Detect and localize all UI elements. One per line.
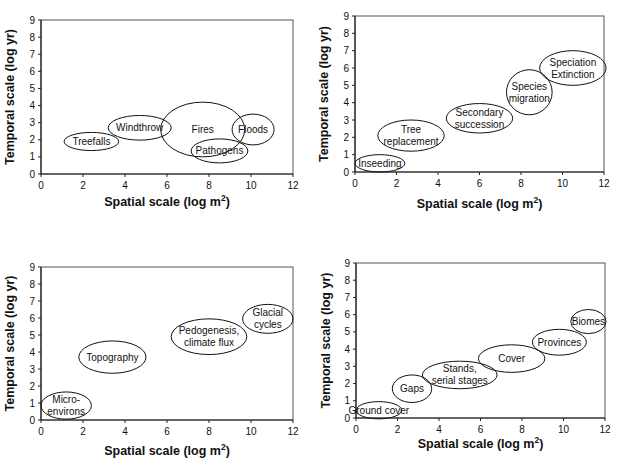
y-axis-label: Temporal scale (log yr) [3, 29, 17, 165]
scale-ellipse: Pathogens [191, 139, 248, 163]
ellipse-label: Extinction [551, 69, 594, 80]
ellipse-label: Inseeding [358, 158, 401, 169]
ellipse-label: environs [47, 406, 85, 417]
y-tick-label: 6 [344, 309, 350, 320]
x-tick-label: 2 [80, 180, 86, 191]
y-tick-label: 3 [343, 115, 349, 126]
chart-panel-2: 0123456789024681012Spatial scale (log m2… [317, 11, 610, 212]
y-tick-label: 9 [29, 262, 35, 273]
scale-ellipse: SpeciationExtinction [540, 51, 606, 86]
x-tick-label: 0 [352, 178, 358, 189]
x-tick-label: 12 [287, 180, 299, 191]
ellipse-label: Biomes [572, 316, 605, 327]
y-axis-label: Temporal scale (log yr) [3, 276, 17, 412]
ellipse-label: Glacial [253, 307, 284, 318]
x-tick-label: 6 [164, 180, 170, 191]
x-tick-label: 6 [164, 426, 170, 437]
y-tick-label: 3 [29, 117, 35, 128]
scale-ellipse: Floods [232, 114, 274, 145]
x-tick-label: 6 [477, 178, 483, 189]
scale-ellipse: Gaps [392, 375, 431, 403]
y-tick-label: 8 [344, 275, 350, 286]
x-tick-label: 2 [394, 178, 400, 189]
y-axis-label: Temporal scale (log yr) [317, 26, 331, 162]
y-tick-label: 6 [343, 63, 349, 74]
x-tick-label: 2 [80, 426, 86, 437]
y-tick-label: 6 [29, 313, 35, 324]
ellipse-label: Secondary [456, 107, 504, 118]
y-tick-label: 5 [344, 326, 350, 337]
scale-ellipse: Inseeding [355, 155, 405, 172]
y-tick-label: 9 [344, 258, 350, 269]
y-tick-label: 9 [29, 15, 35, 26]
ellipse-label: Stands, [443, 363, 477, 374]
ellipse-label: Provinces [537, 337, 581, 348]
x-tick-label: 10 [245, 180, 257, 191]
y-tick-label: 7 [344, 292, 350, 303]
ellipse-label: serial stages [432, 375, 488, 386]
y-tick-label: 3 [29, 364, 35, 375]
y-tick-label: 9 [343, 11, 349, 22]
scale-ellipse: Speciesmigration [506, 70, 552, 115]
scale-ellipse: Provinces [532, 329, 586, 355]
y-tick-label: 0 [343, 167, 349, 178]
scale-ellipse: Biomes [571, 310, 606, 334]
scale-ellipse: Micro-environs [41, 392, 91, 419]
y-tick-label: 4 [29, 100, 35, 111]
x-tick-label: 0 [353, 424, 359, 435]
y-tick-label: 8 [29, 279, 35, 290]
chart-panel-1: 0123456789024681012Spatial scale (log m2… [3, 15, 299, 210]
ellipse-label: Fires [192, 124, 214, 135]
x-tick-label: 12 [287, 426, 299, 437]
ellipse-label: Species [512, 81, 548, 92]
y-tick-label: 2 [344, 378, 350, 389]
ellipse-label: Micro- [52, 394, 80, 405]
ellipse-label: Floods [238, 124, 268, 135]
ellipse-label: succession [455, 119, 504, 130]
y-axis-label: Temporal scale (log yr) [319, 273, 333, 409]
x-tick-label: 4 [436, 424, 442, 435]
y-tick-label: 8 [29, 32, 35, 43]
y-tick-label: 0 [29, 415, 35, 426]
y-tick-label: 7 [29, 49, 35, 60]
ellipse-label: Ground cover [349, 405, 410, 416]
ellipse-label: Pedogenesis, [179, 325, 240, 336]
y-tick-label: 4 [29, 347, 35, 358]
x-tick-label: 8 [518, 178, 524, 189]
x-tick-label: 10 [245, 426, 257, 437]
ellipse-label: migration [509, 93, 550, 104]
ellipse-label: cycles [254, 319, 282, 330]
y-tick-label: 1 [29, 398, 35, 409]
y-tick-label: 0 [29, 169, 35, 180]
y-tick-label: 4 [344, 344, 350, 355]
ellipse-label: climate flux [184, 337, 234, 348]
ellipse-label: Speciation [550, 57, 597, 68]
scale-ellipse: Glacialcycles [243, 304, 293, 333]
x-tick-label: 6 [478, 424, 484, 435]
y-tick-label: 5 [29, 330, 35, 341]
x-tick-label: 8 [519, 424, 525, 435]
ellipse-label: Tree [401, 124, 422, 135]
y-tick-label: 7 [343, 45, 349, 56]
scale-ellipse: Treefalls [64, 132, 119, 150]
x-axis-label: Spatial scale (log m2) [104, 442, 230, 458]
y-tick-label: 4 [343, 97, 349, 108]
scale-ellipse: Ground cover [349, 402, 410, 419]
scale-ellipse: Stands,serial stages [422, 361, 497, 389]
x-tick-label: 12 [598, 178, 610, 189]
ellipse-label: Topography [86, 352, 138, 363]
y-tick-label: 7 [29, 296, 35, 307]
ellipse-label: Treefalls [72, 136, 110, 147]
x-tick-label: 4 [435, 178, 441, 189]
x-tick-label: 2 [395, 424, 401, 435]
x-tick-label: 4 [122, 426, 128, 437]
scale-ellipse: Pedogenesis,climate flux [171, 319, 247, 355]
x-tick-label: 8 [206, 426, 212, 437]
ellipse-label: Windthrow [116, 122, 164, 133]
ellipse-label: Pathogens [196, 145, 244, 156]
y-tick-label: 2 [343, 132, 349, 143]
x-tick-label: 10 [557, 178, 569, 189]
x-tick-label: 10 [558, 424, 570, 435]
y-tick-label: 2 [29, 134, 35, 145]
y-tick-label: 5 [29, 83, 35, 94]
